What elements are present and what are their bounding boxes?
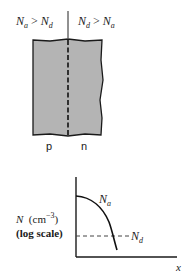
y-axis-label: N (cm−3) [16, 214, 58, 225]
condition-right: Nd > Na [78, 15, 115, 27]
n-region-label: n [81, 141, 87, 152]
condition-left: Na > Nd [16, 15, 53, 27]
y-axis-scale-label: (log scale) [16, 228, 63, 239]
na-series-label: Na [99, 193, 111, 205]
x-axis-label: x [176, 262, 181, 273]
p-region-label: p [46, 141, 52, 152]
nd-series-label: Nd [131, 230, 143, 242]
